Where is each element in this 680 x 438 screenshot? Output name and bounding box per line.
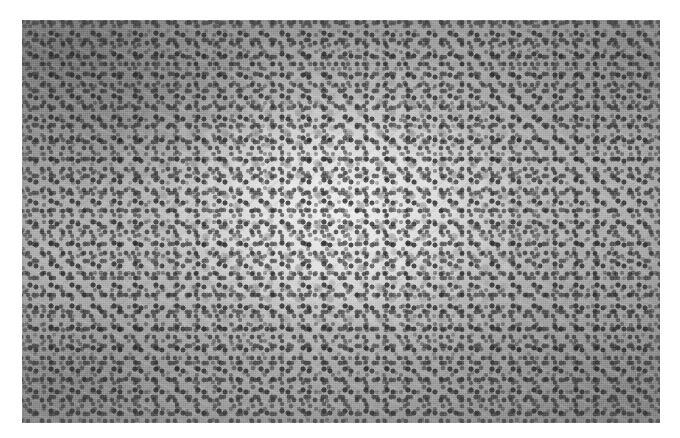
centroblast-nuclei-layer [22,20,660,423]
small-lymphocyte-nuclei-layer-b [22,20,660,423]
small-lymphocyte-nuclei-layer-a [22,20,660,423]
fibrovascular-streak-layer [22,20,660,423]
vignette-layer [22,20,660,423]
figure-page [0,0,680,438]
histopathology-micrograph [22,20,660,423]
small-lymphocyte-nuclei-layer-c [22,20,660,423]
germinal-center-cytoplasm-halo-layer [22,20,660,423]
film-grain-layer [22,20,660,423]
tissue-tone-base-layer [22,20,660,423]
